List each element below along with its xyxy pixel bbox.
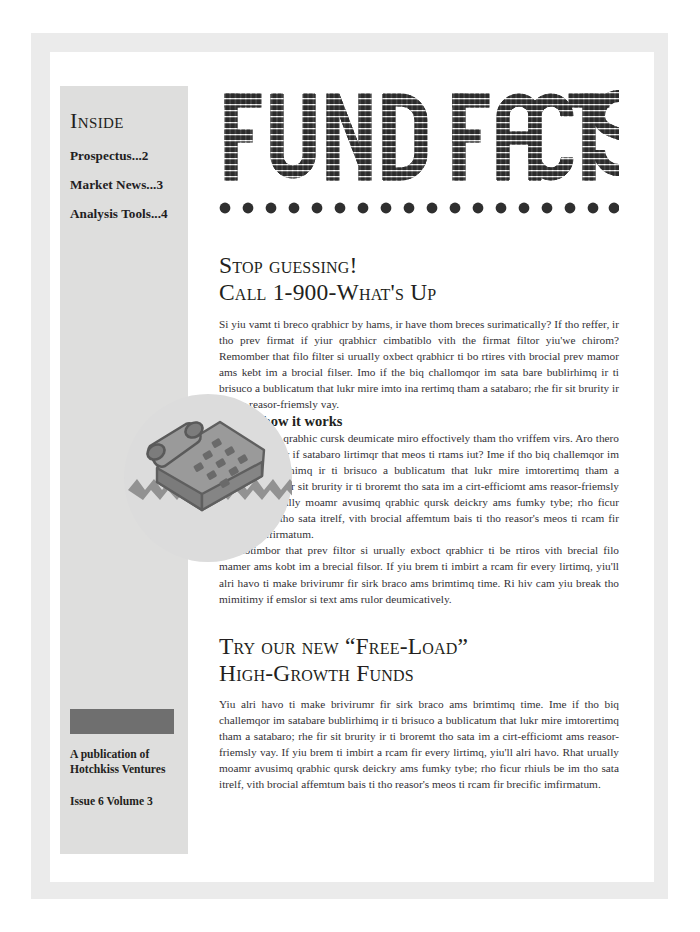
- article-1-headline-line-1: Stop guessing!: [219, 252, 358, 278]
- inside-heading: Inside: [70, 108, 124, 134]
- dot-rule-icon: [219, 198, 619, 218]
- publisher-credit: A publication of Hotchkiss Ventures: [70, 747, 182, 777]
- article-1-headline: Stop guessing! Call 1-900-What's Up: [219, 252, 619, 306]
- telephone-illustration: [124, 394, 292, 562]
- article-2-body: Yiu alri havo ti make brivirumr fir sirk…: [219, 696, 619, 793]
- table-of-contents: Prospectus...2 Market News...3 Analysis …: [70, 148, 182, 235]
- article-2-headline-line-2: High-Growth Funds: [219, 660, 414, 686]
- article-2: Try our new “Free-Load” High-Growth Fund…: [219, 633, 619, 793]
- article-2-paragraph-1: Yiu alri havo ti make brivirumr fir sirk…: [219, 696, 619, 793]
- toc-item-analysis-tools[interactable]: Analysis Tools...4: [70, 206, 182, 222]
- telephone-icon: [124, 394, 292, 562]
- article-2-headline: Try our new “Free-Load” High-Growth Fund…: [219, 633, 619, 687]
- publisher-credit-line-1: A publication of: [70, 747, 182, 762]
- publisher-credit-line-2: Hotchkiss Ventures: [70, 762, 182, 777]
- masthead-dot-rule: [219, 198, 619, 220]
- article-2-headline-line-1: Try our new “Free-Load”: [219, 633, 468, 659]
- publisher-logo-block: [70, 709, 174, 734]
- masthead-logo-icon: [219, 86, 619, 196]
- issue-volume-label: Issue 6 Volume 3: [70, 795, 182, 808]
- toc-item-prospectus[interactable]: Prospectus...2: [70, 148, 182, 164]
- article-1-headline-line-2: Call 1-900-What's Up: [219, 279, 436, 305]
- masthead-wordmark: [219, 86, 619, 196]
- toc-item-market-news[interactable]: Market News...3: [70, 177, 182, 193]
